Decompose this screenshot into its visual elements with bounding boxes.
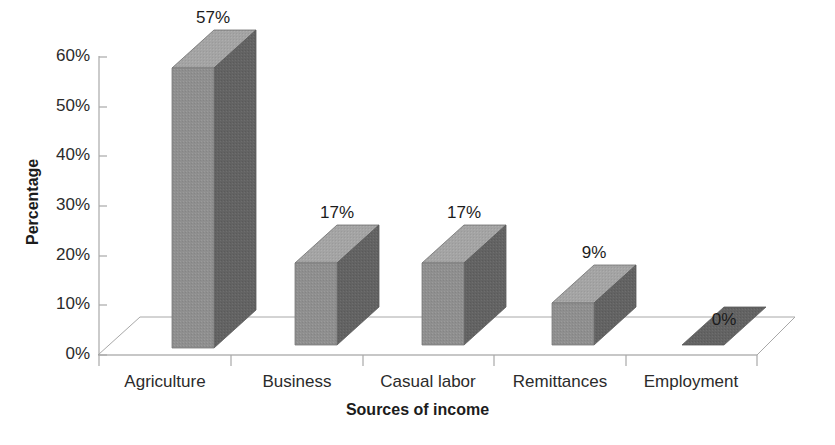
value-label-casual-labor: 17% (414, 203, 514, 223)
value-label-employment: 0% (674, 310, 774, 330)
xtick-label-agriculture: Agriculture (95, 372, 235, 392)
x-axis-title: Sources of income (0, 401, 835, 419)
x-axis-ticks (99, 355, 757, 366)
ytick-label-60: 60% (18, 46, 90, 66)
ytick-label-0: 0% (18, 344, 90, 364)
xtick-label-business: Business (227, 372, 367, 392)
bar-agriculture (172, 30, 256, 348)
ytick-label-50: 50% (18, 96, 90, 116)
xtick-label-employment: Employment (621, 372, 761, 392)
value-label-business: 17% (287, 203, 387, 223)
ytick-label-20: 20% (18, 245, 90, 265)
value-label-remittances: 9% (544, 243, 644, 263)
ytick-label-10: 10% (18, 294, 90, 314)
xtick-label-remittances: Remittances (490, 372, 630, 392)
y-axis (99, 56, 107, 355)
value-label-agriculture: 57% (163, 8, 263, 28)
xtick-label-casual-labor: Casual labor (358, 372, 498, 392)
y-axis-title: Percentage (24, 159, 42, 245)
chart-container: 60% 50% 40% 30% 20% 10% 0% 57% 17% 17% 9… (0, 0, 835, 445)
